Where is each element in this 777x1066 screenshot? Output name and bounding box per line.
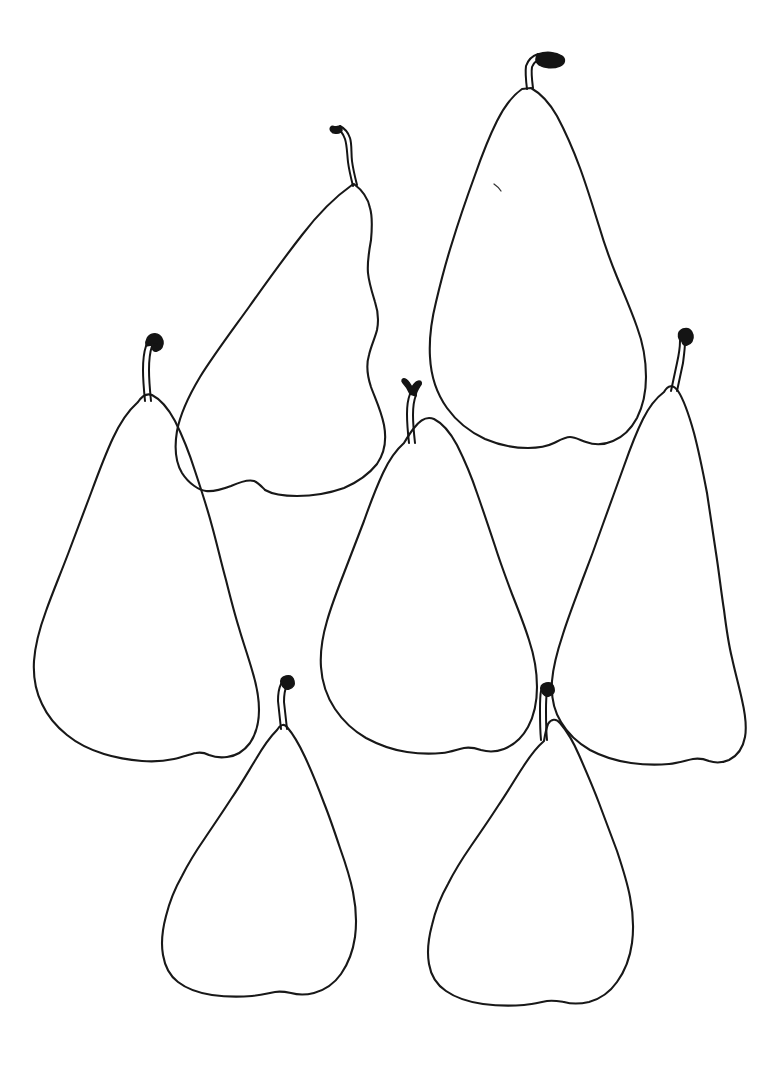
pear-stem-tip	[281, 676, 295, 690]
pear-stem-tip	[536, 52, 565, 68]
pear-stem-inner	[546, 692, 547, 740]
pear-stem-tip	[541, 683, 555, 697]
pear-stem	[540, 691, 541, 740]
pear-drawing-artboard	[0, 0, 777, 1066]
pear-stem-tip	[330, 126, 342, 133]
paper-background	[0, 0, 777, 1066]
pear-drawing-canvas	[0, 0, 777, 1066]
